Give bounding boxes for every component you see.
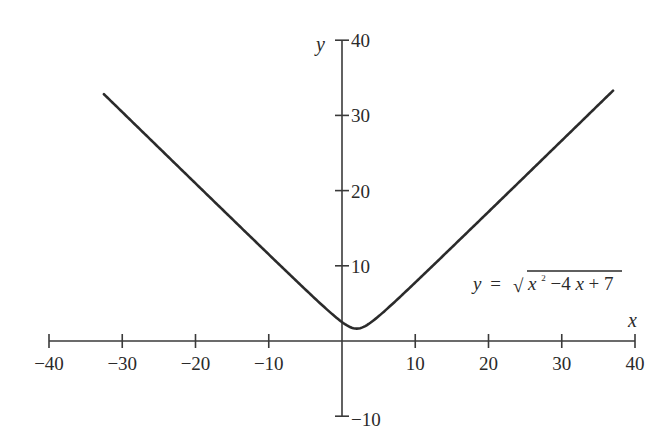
function-plot: −40−30−20−1010203040 40302010−10 y x y =… [0, 0, 672, 444]
x-axis-label: x [627, 309, 637, 331]
y-tick-label: 20 [351, 181, 370, 202]
y-axis-label: y [314, 33, 325, 56]
x-tick-label: −30 [107, 353, 137, 374]
y-tick-label: 10 [351, 256, 370, 277]
x-tick-label: 20 [479, 353, 498, 374]
svg-text:y =: y = [471, 273, 501, 294]
x-tick-label: −10 [254, 353, 284, 374]
equation-x2: x [574, 273, 584, 294]
svg-text:x 2 −4 x: x 2 −4 x + 7 [527, 264, 614, 294]
equation-equals: = [490, 273, 501, 294]
x-ticks: −40−30−20−1010203040 [34, 334, 644, 374]
equation-lhs: y [471, 273, 482, 294]
equation-annotation: y = √ x 2 −4 x + 7 [471, 264, 622, 296]
x-tick-label: 10 [406, 353, 425, 374]
equation-mid: −4 [550, 273, 571, 294]
equation-sup: 2 [541, 273, 546, 283]
equation-x1: x [527, 273, 537, 294]
radical-sign-icon: √ [513, 275, 524, 296]
x-tick-label: 40 [626, 353, 645, 374]
y-tick-label: 40 [351, 30, 370, 51]
x-tick-label: −20 [181, 353, 211, 374]
y-tick-label: 30 [351, 105, 370, 126]
y-tick-label: −10 [351, 409, 381, 430]
x-tick-label: 30 [552, 353, 571, 374]
equation-tail: + 7 [589, 273, 614, 294]
x-tick-label: −40 [34, 353, 64, 374]
